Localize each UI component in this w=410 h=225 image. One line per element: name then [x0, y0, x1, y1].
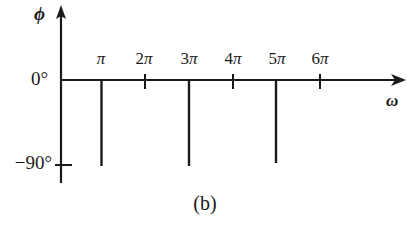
- x-tick-symbol: π: [233, 49, 242, 68]
- x-tick-symbol: π: [97, 49, 106, 68]
- x-tick-label-2pi: 2π: [135, 50, 152, 67]
- x-tick-symbol: π: [320, 49, 329, 68]
- x-tick-coefficient: 5: [268, 49, 277, 68]
- x-tick-label-6pi: 6π: [311, 50, 328, 67]
- y-axis-label: ϕ: [34, 4, 45, 23]
- y-tick-label-0deg: 0°: [0, 69, 48, 88]
- x-tick-coefficient: 3: [180, 49, 189, 68]
- x-tick-label-pi: π: [97, 50, 106, 67]
- x-tick-label-4pi: 4π: [224, 50, 241, 67]
- x-tick-symbol: π: [277, 49, 286, 68]
- x-tick-symbol: π: [189, 49, 198, 68]
- x-tick-symbol: π: [144, 49, 153, 68]
- figure-caption: (b): [0, 193, 410, 213]
- x-tick-label-5pi: 5π: [268, 50, 285, 67]
- x-axis-label: ω: [386, 92, 398, 109]
- x-tick-coefficient: 4: [224, 49, 233, 68]
- x-tick-label-3pi: 3π: [180, 50, 197, 67]
- x-tick-coefficient: 6: [311, 49, 320, 68]
- phase-spectrum-figure: ϕ ω 0° −90° π 2π 3π 4π 5π 6π (b): [0, 0, 410, 225]
- y-tick-label-neg90deg: −90°: [0, 153, 52, 172]
- x-tick-coefficient: 2: [135, 49, 144, 68]
